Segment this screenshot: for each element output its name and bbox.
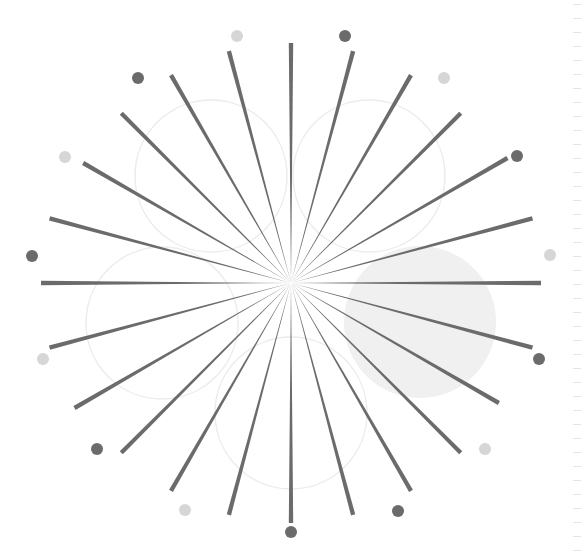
ruler-tick [573,256,581,257]
ruler-tick [573,452,581,453]
ruler-tick [573,130,581,131]
dot-light [438,72,450,84]
dot-dark [285,526,297,538]
ruler-tick [573,312,581,313]
ruler-tick [573,536,581,537]
ruler-tick [573,368,581,369]
ruler-tick [573,284,581,285]
ruler-tick [573,88,581,89]
ruler-tick [573,396,581,397]
ruler-tick [573,424,581,425]
spoke [49,216,291,283]
ruler-tick [573,102,581,103]
ruler-tick [573,200,581,201]
ruler-tick [573,466,581,467]
radial-burst-graphic [0,0,583,560]
ruler-tick [573,508,581,509]
background-circle [293,100,445,252]
ruler-tick [573,186,581,187]
ruler-tick [573,382,581,383]
ruler-tick [573,354,581,355]
ruler-tick [573,18,581,19]
spoke [289,283,293,523]
dot-light [479,443,491,455]
ruler-tick [573,270,581,271]
ruler-tick [573,32,581,33]
ruler-tick [573,298,581,299]
ruler-tick [573,158,581,159]
background-circle [86,247,238,399]
spoke [289,43,293,283]
dot-light [59,151,71,163]
background-circle [135,100,287,252]
ruler-tick [573,60,581,61]
dot-light [231,30,243,42]
spoke [49,283,291,350]
dot-dark [26,250,38,262]
dot-dark [533,353,545,365]
dot-light [179,504,191,516]
ruler-tick [573,550,581,551]
edge-ruler [569,0,583,560]
ruler-tick [573,438,581,439]
dot-dark [91,443,103,455]
ruler-tick [573,116,581,117]
dot-light [37,353,49,365]
ruler-tick [573,242,581,243]
dot-dark [511,150,523,162]
spoke [41,281,291,285]
ruler-tick [573,340,581,341]
dot-dark [132,72,144,84]
ruler-tick [573,214,581,215]
ruler-tick [573,46,581,47]
ruler-tick [573,74,581,75]
ruler-tick [573,144,581,145]
dot-dark [339,30,351,42]
ruler-tick [573,4,581,5]
ruler-tick [573,326,581,327]
spokes [41,43,541,523]
dot-dark [392,505,404,517]
ruler-tick [573,410,581,411]
ruler-tick [573,228,581,229]
ruler-tick [573,522,581,523]
ruler-tick [573,494,581,495]
ruler-tick [573,480,581,481]
dot-light [544,249,556,261]
ruler-tick [573,172,581,173]
spoke [227,283,291,515]
background-circle [344,246,496,398]
